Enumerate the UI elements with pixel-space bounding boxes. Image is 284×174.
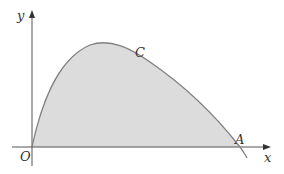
y-axis-label: y bbox=[16, 8, 25, 23]
figure: y x O C A bbox=[0, 0, 284, 174]
diagram-canvas: y x O C A bbox=[0, 0, 284, 174]
curve-label: C bbox=[135, 45, 145, 60]
origin-label: O bbox=[20, 149, 31, 164]
y-axis-arrow-icon bbox=[29, 10, 35, 18]
x-axis-label: x bbox=[264, 150, 272, 165]
point-a-label: A bbox=[234, 132, 244, 147]
